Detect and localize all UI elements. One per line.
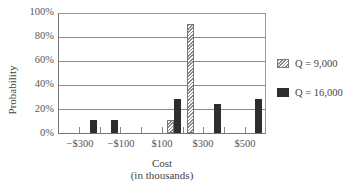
x-tick-label: $100	[152, 138, 173, 149]
x-tick-label: $300	[193, 138, 214, 149]
x-tick	[120, 127, 121, 133]
x-tick	[141, 127, 142, 133]
bar-q16000	[214, 104, 221, 133]
x-tick	[162, 127, 163, 133]
gridline	[59, 109, 265, 110]
x-tick-label: −$100	[108, 138, 135, 149]
gridline	[59, 61, 265, 62]
x-tick	[245, 127, 246, 133]
bar-q16000	[174, 99, 181, 133]
plot-area	[58, 13, 266, 134]
legend-item-q9000: Q = 9,000	[277, 58, 337, 69]
x-tick	[183, 127, 184, 133]
bar-q9000	[167, 120, 174, 133]
x-tick	[203, 127, 204, 133]
y-tick-label: 0%	[18, 127, 54, 138]
x-tick-label: $500	[235, 138, 256, 149]
y-tick-label: 80%	[18, 30, 54, 41]
x-tick-label: −$300	[67, 138, 94, 149]
gridline	[59, 85, 265, 86]
x-tick	[100, 127, 101, 133]
bar-q16000	[90, 120, 97, 133]
x-axis-title: Cost (in thousands)	[131, 157, 194, 181]
x-tick	[79, 127, 80, 133]
y-tick-label: 100%	[18, 6, 54, 17]
gridline	[59, 37, 265, 38]
x-tick	[224, 127, 225, 133]
legend-item-q16000: Q = 16,000	[277, 87, 343, 98]
solid-swatch-icon	[277, 88, 289, 97]
y-tick-label: 60%	[18, 54, 54, 65]
bar-q16000	[111, 120, 118, 133]
y-tick-label: 20%	[18, 103, 54, 114]
hatched-swatch-icon	[277, 59, 289, 68]
y-tick-label: 40%	[18, 78, 54, 89]
bar-q9000	[187, 24, 194, 133]
bar-q16000	[255, 99, 262, 133]
